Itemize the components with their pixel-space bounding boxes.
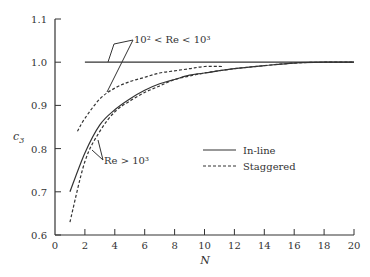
annotation-leader-high-re-1: [98, 140, 103, 160]
legend-label-staggered: Staggered: [243, 161, 296, 172]
x-tick-label: 2: [82, 240, 88, 251]
annotation-leader-low-re-2: [107, 40, 133, 92]
x-tick-label: 6: [142, 240, 148, 251]
annotation-leader-low-re-1: [108, 40, 133, 62]
y-tick-label: 0.8: [31, 144, 47, 155]
legend-label-inline: In-line: [243, 145, 276, 156]
series-line-1: [77, 66, 222, 131]
y-tick-label: 0.7: [31, 187, 47, 198]
y-axis-label-sub: 3: [19, 136, 24, 145]
y-tick-label: 1.1: [31, 14, 47, 25]
chart: 0.60.70.80.91.01.102468101214161820 10² …: [0, 0, 370, 277]
x-tick-label: 16: [288, 240, 301, 251]
y-tick-label: 0.6: [31, 230, 47, 241]
x-tick-label: 4: [112, 240, 118, 251]
x-tick-label: 12: [228, 240, 241, 251]
series-lines: [70, 62, 354, 222]
x-tick-label: 8: [171, 240, 177, 251]
annotation-high-re: Re > 10³: [104, 155, 149, 166]
x-tick-label: 18: [318, 240, 331, 251]
axes: 0.60.70.80.91.01.102468101214161820: [31, 14, 360, 251]
y-axis-label: c3: [13, 130, 24, 145]
series-line-3: [70, 62, 354, 222]
annotation-low-re: 10² < Re < 10³: [134, 34, 210, 45]
x-axis-label: N: [199, 254, 210, 267]
x-tick-label: 10: [198, 240, 211, 251]
annotations: 10² < Re < 10³ Re > 10³: [92, 34, 210, 166]
x-tick-label: 14: [258, 240, 271, 251]
y-tick-label: 0.9: [31, 100, 47, 111]
legend: In-line Staggered: [203, 145, 296, 172]
x-tick-label: 20: [348, 240, 361, 251]
y-tick-label: 1.0: [31, 57, 47, 68]
x-tick-label: 0: [52, 240, 58, 251]
